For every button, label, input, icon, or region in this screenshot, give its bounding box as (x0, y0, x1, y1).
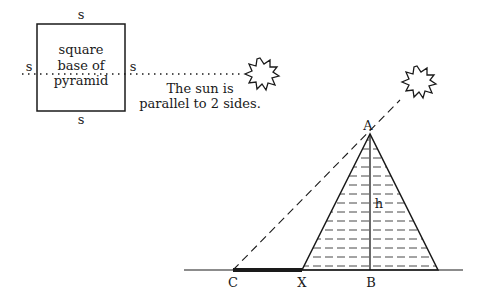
caption-line1: The sun is (166, 81, 233, 96)
point-label-x: X (297, 275, 307, 290)
height-label-h: h (375, 196, 384, 211)
side-label-right: s (130, 59, 137, 74)
point-label-b: B (366, 275, 376, 290)
point-label-c: C (228, 275, 238, 290)
point-label-a: A (362, 118, 373, 133)
square-text-line1: square (58, 42, 103, 57)
square-text-line3: pyramid (54, 73, 108, 88)
sun-starburst-icon (245, 58, 279, 90)
side-label-bottom: s (78, 112, 85, 127)
side-label-top: s (78, 7, 85, 22)
caption-line2: parallel to 2 sides. (139, 96, 261, 111)
top-view: s s s s square base of pyramid The sun i… (22, 7, 279, 127)
side-label-left: s (26, 59, 33, 74)
pyramid-shadow-diagram: s s s s square base of pyramid The sun i… (0, 0, 486, 305)
square-text-line2: base of (57, 58, 105, 73)
sun-starburst-icon (402, 66, 436, 98)
